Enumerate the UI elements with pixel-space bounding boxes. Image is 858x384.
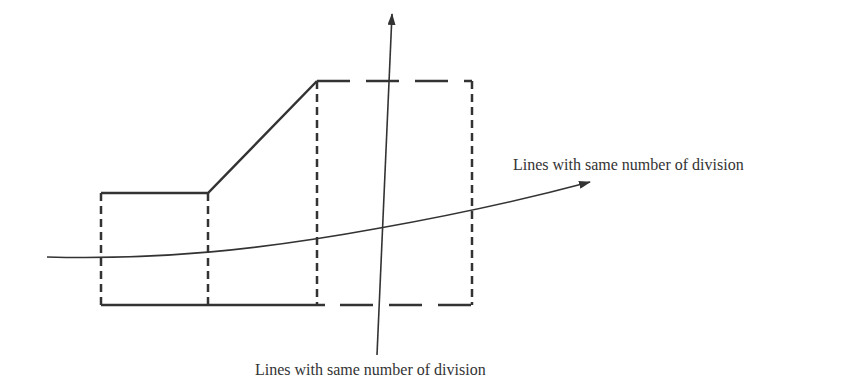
horizontal-lines-label: Lines with same number of division [513,156,744,174]
solid-outline [101,81,325,305]
diagram-canvas [0,0,858,384]
top-outline-solid [101,81,317,193]
vertical-lines-label: Lines with same number of division [255,361,486,379]
